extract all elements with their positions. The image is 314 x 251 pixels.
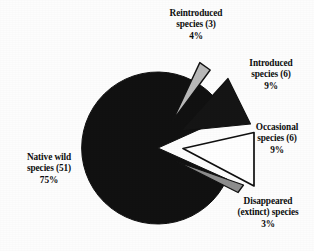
slice-label-disappeared-extinct-species: Disappeared (extinct) species 3%: [222, 196, 314, 230]
slice-label-line1: Native wild: [6, 152, 92, 163]
slice-label-introduced-species: Introduced species (6) 9%: [228, 58, 314, 92]
slice-label-line2: (extinct) species: [222, 207, 314, 218]
slice-label-line3: 9%: [228, 81, 314, 92]
slice-label-line2: species (6): [240, 133, 314, 144]
slice-label-line1: Reintroduced: [142, 8, 250, 19]
slice-label-native-wild-species: Native wild species (51) 75%: [6, 152, 92, 186]
slice-label-line3: 75%: [6, 175, 92, 186]
pie-chart-figure: Reintroduced species (3) 4% Introduced s…: [0, 0, 314, 251]
slice-label-line1: Occasional: [240, 122, 314, 133]
slice-label-occasional-species: Occasional species (6) 9%: [240, 122, 314, 156]
slice-label-line2: species (51): [6, 163, 92, 174]
slice-label-line3: 3%: [222, 219, 314, 230]
slice-label-line1: Introduced: [228, 58, 314, 69]
slice-label-line3: 9%: [240, 145, 314, 156]
slice-label-line2: species (3): [142, 19, 250, 30]
slice-label-reintroduced-species: Reintroduced species (3) 4%: [142, 8, 250, 42]
slice-label-line3: 4%: [142, 31, 250, 42]
slice-label-line1: Disappeared: [222, 196, 314, 207]
slice-label-line2: species (6): [228, 69, 314, 80]
